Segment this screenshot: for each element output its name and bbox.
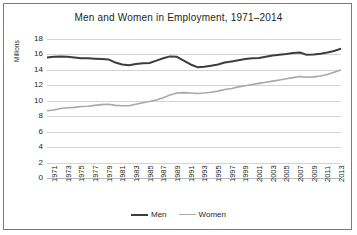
chart-legend: Men Women [4, 210, 353, 219]
x-tick-label: 1989 [174, 165, 182, 182]
x-tick-label: 2009 [311, 165, 319, 182]
y-tick-label: 18 [21, 35, 43, 43]
legend-label-men: Men [151, 210, 167, 219]
legend-swatch-men [131, 214, 148, 216]
y-tick-label: 14 [21, 66, 43, 74]
x-tick-label: 2013 [338, 165, 346, 182]
x-tick-label: 2001 [256, 165, 264, 182]
y-tick-label: 16 [21, 50, 43, 58]
legend-item-women: Women [179, 210, 226, 219]
x-tick-label: 2007 [297, 165, 305, 182]
y-tick-label: 6 [21, 128, 43, 136]
x-tick-label: 1991 [188, 165, 196, 182]
x-tick-label: 1997 [229, 165, 237, 182]
y-tick-label: 2 [21, 159, 43, 167]
legend-label-women: Women [199, 210, 226, 219]
x-tick-label: 1985 [147, 165, 155, 182]
x-tick-label: 2005 [283, 165, 291, 182]
y-tick-label: 12 [21, 81, 43, 89]
y-tick-label: 8 [21, 112, 43, 120]
x-tick-label: 1987 [160, 165, 168, 182]
legend-item-men: Men [131, 210, 167, 219]
series-line-men [47, 49, 341, 68]
x-tick-label: 1995 [215, 165, 223, 182]
x-tick-label: 1971 [51, 165, 59, 182]
x-tick-label: 1981 [119, 165, 127, 182]
y-axis-label: Millions [13, 40, 20, 62]
x-tick-label: 1999 [242, 165, 250, 182]
y-tick-label: 4 [21, 143, 43, 151]
x-tick-label: 1977 [92, 165, 100, 182]
x-tick-label: 2011 [324, 166, 332, 182]
chart-frame: Men and Women in Employment, 1971–2014 M… [3, 3, 352, 230]
y-tick-label: 10 [21, 97, 43, 105]
x-tick-label: 1979 [106, 165, 114, 182]
series-lines [47, 39, 341, 178]
x-tick-label: 1983 [133, 165, 141, 182]
x-tick-label: 1973 [65, 165, 73, 182]
plot-area: Millions 024681012141618 197119731975197… [4, 4, 353, 231]
y-tick-label: 0 [21, 174, 43, 182]
x-tick-label: 2003 [270, 165, 278, 182]
x-tick-label: 1993 [201, 165, 209, 182]
series-line-women [47, 70, 341, 111]
legend-swatch-women [179, 214, 196, 215]
x-tick-label: 1975 [78, 165, 86, 182]
